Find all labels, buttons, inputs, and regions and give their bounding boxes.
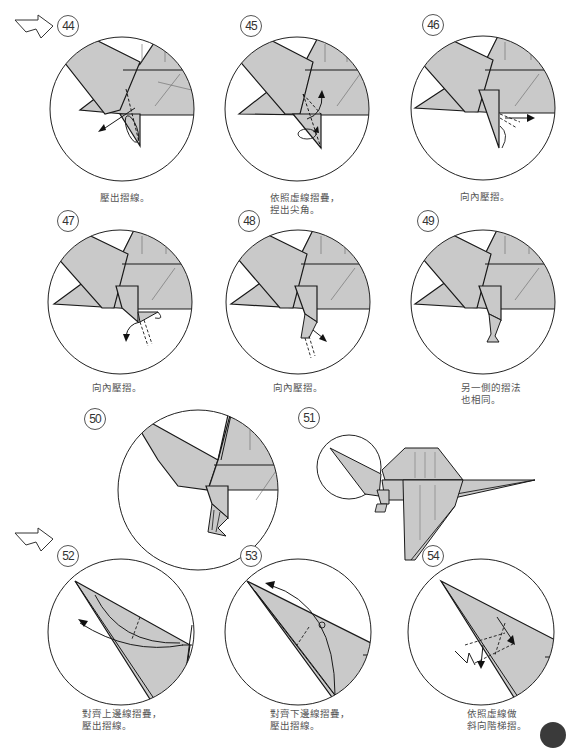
step-54: 54 依照虛線做 斜向階梯摺。 (405, 545, 565, 730)
step-52-diagram (40, 545, 200, 695)
caption-line: 壓出摺線。 (82, 720, 162, 732)
step-51: 51 (295, 400, 565, 550)
step-53: 53 對齊下邊線摺疊， 壓出摺線。 (225, 545, 385, 730)
caption-line: 依照虛線摺疊， (270, 192, 340, 204)
caption-line: 壓出摺線。 (270, 720, 350, 732)
caption-line: 對齊上邊線摺疊， (82, 708, 162, 720)
step-50-diagram (88, 390, 288, 550)
step-47: 47 向內壓摺。 (40, 210, 190, 390)
step-49: 49 另一側的摺法 也相同。 (405, 210, 565, 400)
step-46: 46 向內壓摺。 (405, 14, 565, 204)
step-48: 48 向內壓摺。 (225, 210, 375, 390)
step-45-diagram (225, 14, 375, 189)
caption-line: 向內壓摺。 (450, 191, 520, 203)
step-caption: 依照虛線做 斜向階梯摺。 (467, 708, 527, 732)
step-44-diagram (40, 14, 190, 189)
step-46-diagram (405, 14, 565, 189)
step-48-diagram (225, 210, 375, 380)
caption-line: 另一側的摺法 (461, 382, 521, 394)
step-52: 52 對齊上邊線摺疊， 壓出摺線。 (40, 545, 200, 730)
page-corner-marker (540, 722, 566, 748)
step-caption: 對齊上邊線摺疊， 壓出摺線。 (82, 708, 162, 732)
step-caption: 對齊下邊線摺疊， 壓出摺線。 (270, 708, 350, 732)
step-49-diagram (405, 210, 565, 380)
step-50: 50 (88, 390, 288, 540)
step-45: 45 依照虛線摺疊， 捏出尖角。 (225, 14, 375, 204)
step-53-diagram (225, 545, 385, 695)
step-caption: 向內壓摺。 (450, 191, 520, 203)
step-51-diagram (295, 400, 565, 550)
step-54-diagram (405, 545, 565, 695)
step-44: 44 壓出摺線。 (40, 14, 190, 204)
caption-line: 壓出摺線。 (90, 192, 160, 204)
caption-line: 依照虛線做 (467, 708, 527, 720)
step-47-diagram (40, 210, 190, 380)
caption-line: 對齊下邊線摺疊， (270, 708, 350, 720)
step-caption: 壓出摺線。 (90, 192, 160, 204)
caption-line: 斜向階梯摺。 (467, 720, 527, 732)
